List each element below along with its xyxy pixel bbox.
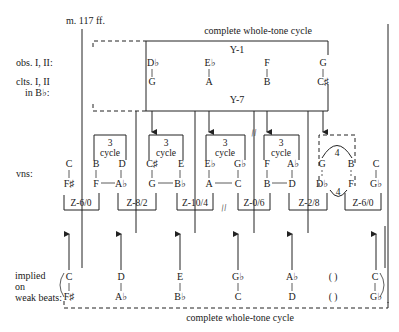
implied-label-3: weak beats:	[15, 292, 62, 303]
svg-text:A: A	[205, 178, 213, 189]
svg-text:C: C	[66, 158, 73, 169]
svg-text:Z-0/6: Z-0/6	[243, 198, 264, 208]
svg-text:D: D	[288, 178, 295, 189]
svg-text:G♭: G♭	[234, 158, 246, 169]
violin-dyad: E♭ A	[205, 158, 216, 189]
top-dashed-bracket	[93, 41, 146, 47]
svg-text:G♭: G♭	[232, 271, 244, 282]
svg-text:B: B	[93, 158, 100, 169]
implied-dyad: A♭ D	[286, 271, 298, 302]
svg-text:F: F	[264, 158, 270, 169]
implied-label-2: on	[15, 281, 25, 292]
svg-text:G: G	[319, 57, 326, 68]
implied-dyad-empty: ( ) ( )	[329, 272, 338, 303]
violin-dyad: B F	[348, 158, 355, 189]
three-cycle-box: 3 cycle	[94, 135, 126, 160]
svg-text:C: C	[235, 178, 242, 189]
three-cycle-box: 3 cycle	[149, 135, 183, 160]
svg-text:3: 3	[223, 138, 228, 148]
top-caption: complete whole-tone cycle	[204, 25, 312, 36]
svg-text:3: 3	[279, 138, 284, 148]
svg-text:C♯: C♯	[317, 76, 329, 87]
svg-text:F: F	[348, 178, 354, 189]
svg-text:G: G	[318, 158, 325, 169]
implied-label-1: implied	[15, 270, 46, 281]
y-dyad: F B	[264, 57, 271, 87]
break-mark: //	[250, 127, 258, 139]
svg-text:G♭: G♭	[370, 178, 382, 189]
svg-text:A♭: A♭	[115, 178, 127, 189]
clarinets-label-1: clts. I, II	[16, 76, 50, 87]
svg-text:E: E	[177, 271, 183, 282]
violin-dyad: G♭ C	[234, 158, 246, 189]
svg-text:F♯: F♯	[64, 291, 75, 302]
whole-tone-cycle-diagram: m. 117 ff. complete whole-tone cycle Y-1…	[0, 0, 399, 332]
measure-label: m. 117 ff.	[66, 15, 105, 26]
bottom-whole-tone-bracket	[64, 301, 388, 308]
violin-dyad: C♯ G	[146, 158, 158, 189]
svg-text:A: A	[205, 76, 213, 87]
y-dyad: D♭ G	[147, 57, 159, 87]
violin-dyad: B F	[93, 158, 100, 189]
oboes-label: obs. I, II:	[16, 57, 53, 68]
violin-dyad: C F♯	[64, 158, 75, 189]
four-label-upper: 4	[335, 148, 340, 158]
violin-dyad: C G♭	[370, 158, 382, 189]
svg-text:A♭: A♭	[287, 158, 299, 169]
three-cycle-box: 3 cycle	[264, 135, 299, 160]
three-cycle-box: 3 cycle	[206, 135, 245, 160]
violins-label: vns:	[16, 168, 33, 179]
bottom-caption: complete whole-tone cycle	[186, 312, 294, 323]
z-cycle-bracket: Z-8/2	[118, 193, 156, 210]
svg-text:F: F	[93, 178, 99, 189]
svg-text:Z-10/4: Z-10/4	[182, 198, 208, 208]
svg-text:B♭: B♭	[174, 291, 186, 302]
violin-dyad: A♭ D	[287, 158, 299, 189]
svg-text:Z-2/8: Z-2/8	[298, 198, 319, 208]
svg-text:3: 3	[164, 138, 169, 148]
svg-text:Z-8/2: Z-8/2	[126, 198, 147, 208]
bottom-dashed-bracket	[93, 104, 146, 111]
svg-text:B: B	[264, 178, 271, 189]
svg-text:E: E	[178, 158, 184, 169]
violin-dyad: G D♭	[316, 158, 328, 189]
svg-text:G: G	[148, 178, 155, 189]
svg-text:Z-6/0: Z-6/0	[70, 198, 91, 208]
violin-dyad: F B	[264, 158, 271, 189]
y1-label: Y-1	[230, 44, 244, 55]
svg-text:cycle: cycle	[100, 148, 120, 158]
svg-text:F: F	[264, 57, 270, 68]
svg-text:F♯: F♯	[64, 178, 75, 189]
svg-text:cycle: cycle	[156, 148, 176, 158]
svg-text:C♯: C♯	[146, 158, 158, 169]
svg-text:G: G	[148, 76, 155, 87]
svg-text:cycle: cycle	[271, 148, 291, 158]
svg-text:D: D	[288, 291, 295, 302]
svg-text:D♭: D♭	[316, 178, 328, 189]
implied-dyad: C F♯	[60, 271, 74, 302]
implied-dyad: G♭ C	[232, 271, 244, 302]
svg-text:B: B	[348, 158, 355, 169]
svg-text:E♭: E♭	[205, 57, 216, 68]
svg-text:C: C	[373, 158, 380, 169]
svg-text:C: C	[235, 291, 242, 302]
svg-text:cycle: cycle	[215, 148, 235, 158]
y7-label: Y-7	[230, 94, 244, 105]
svg-text:Z-6/0: Z-6/0	[352, 198, 373, 208]
svg-text:D♭: D♭	[147, 57, 159, 68]
implied-dyad: C G♭	[370, 271, 384, 302]
svg-text:D: D	[118, 158, 125, 169]
svg-text:( ): ( )	[329, 292, 338, 303]
implied-dyad: D A♭	[115, 271, 127, 302]
four-label-lower: 4	[336, 187, 341, 197]
svg-text:A♭: A♭	[115, 291, 127, 302]
svg-text:E♭: E♭	[205, 158, 216, 169]
y-dyad: G C♯	[317, 57, 329, 87]
violin-dyad: E B♭	[174, 158, 186, 189]
break-mark: //	[220, 202, 228, 214]
svg-text:B♭: B♭	[174, 178, 186, 189]
svg-text:A♭: A♭	[286, 271, 298, 282]
clarinets-label-2: in B♭:	[25, 87, 49, 98]
svg-text:C: C	[372, 271, 379, 282]
z-cycle-bracket: Z-6/0	[345, 193, 381, 210]
